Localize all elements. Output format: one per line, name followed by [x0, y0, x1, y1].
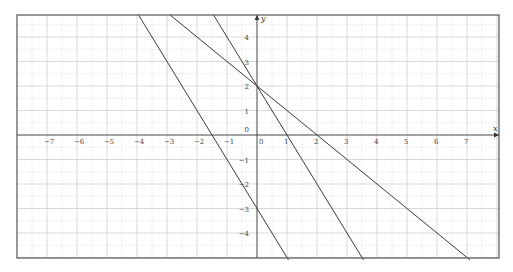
- y-axis-label: y: [260, 14, 266, 23]
- x-tick-label: −3: [164, 138, 174, 146]
- y-tick-label: 1: [245, 108, 249, 116]
- y-tick-label: 0: [245, 126, 249, 134]
- x-tick-label: 0: [259, 138, 263, 146]
- x-tick-label: −2: [194, 138, 204, 146]
- y-tick-label: 4: [245, 34, 250, 42]
- x-tick-label: 3: [344, 138, 348, 146]
- x-tick-label: −7: [44, 138, 54, 146]
- series-lines: [139, 15, 471, 260]
- y-tick-label: −3: [239, 206, 249, 214]
- x-tick-label: 5: [404, 138, 408, 146]
- x-tick-label: 6: [434, 138, 439, 146]
- grid: [17, 15, 499, 258]
- series-line: [139, 15, 289, 260]
- series-line: [170, 15, 470, 260]
- y-tick-label: −4: [239, 230, 250, 238]
- x-tick-label: 2: [314, 138, 318, 146]
- x-tick-label: −5: [104, 138, 114, 146]
- x-tick-label: 7: [464, 138, 468, 146]
- y-axis-arrow-icon: [255, 15, 260, 20]
- x-tick-label: −1: [224, 138, 234, 146]
- y-tick-label: 2: [245, 83, 249, 91]
- x-axis-arrow-icon: [494, 133, 499, 138]
- y-tick-label: 3: [245, 59, 249, 67]
- x-tick-label: 4: [374, 138, 379, 146]
- plot-frame: [17, 15, 499, 258]
- axes: [17, 15, 499, 258]
- series-line: [214, 15, 364, 260]
- x-axis-label: x: [493, 124, 498, 133]
- y-tick-label: −1: [239, 157, 249, 165]
- x-tick-label: −4: [134, 138, 145, 146]
- x-tick-label: −6: [74, 138, 85, 146]
- line-chart: −7−6−5−4−3−2−101234567−4−3−2−101234 y x: [0, 0, 513, 272]
- x-tick-label: 1: [284, 138, 288, 146]
